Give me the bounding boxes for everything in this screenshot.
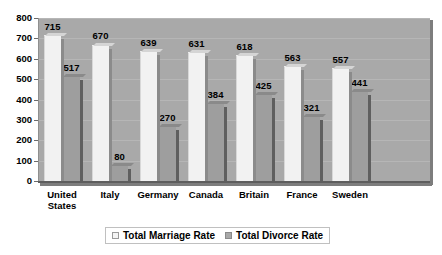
bar-side-face bbox=[301, 70, 304, 181]
y-axis-tick-label: 0 bbox=[2, 176, 32, 185]
y-axis-tick-label: 300 bbox=[2, 115, 32, 124]
bar-side-face bbox=[109, 49, 112, 182]
bar bbox=[303, 116, 320, 181]
bar bbox=[111, 165, 128, 181]
bar-top-face bbox=[285, 64, 307, 67]
bar-top-face bbox=[159, 124, 182, 127]
bar bbox=[236, 55, 253, 181]
bar-top-face bbox=[141, 49, 163, 52]
bar bbox=[255, 94, 272, 181]
gridline bbox=[38, 18, 430, 19]
bar bbox=[92, 45, 109, 182]
bar-top-face bbox=[207, 101, 230, 104]
y-axis-tick-label: 200 bbox=[2, 135, 32, 144]
bar-top-face bbox=[303, 114, 326, 117]
bar-side-face bbox=[80, 80, 83, 181]
y-axis-tick-label: 600 bbox=[2, 54, 32, 63]
bar-side-face bbox=[61, 39, 64, 181]
bar-side-face bbox=[349, 72, 352, 181]
bar bbox=[159, 126, 176, 181]
bar-top-face bbox=[63, 74, 86, 77]
legend-item[interactable]: Total Marriage Rate bbox=[112, 230, 215, 241]
bar-top-face bbox=[45, 33, 67, 36]
bar-value-label: 557 bbox=[328, 55, 353, 65]
legend-swatch-icon bbox=[112, 232, 119, 239]
legend-swatch-icon bbox=[225, 232, 232, 239]
bar-top-face bbox=[111, 163, 134, 166]
bar bbox=[188, 52, 205, 181]
legend-label: Total Divorce Rate bbox=[236, 230, 323, 241]
bar-top-face bbox=[333, 66, 355, 69]
bar-top-face bbox=[351, 89, 374, 92]
bar bbox=[332, 68, 349, 181]
y-axis-tick-label: 100 bbox=[2, 156, 32, 165]
y-axis-tick-label: 700 bbox=[2, 33, 32, 42]
bar-side-face bbox=[320, 120, 323, 181]
x-axis-category-label: Sweden bbox=[322, 189, 378, 200]
bar-side-face bbox=[205, 56, 208, 181]
bar-side-face bbox=[253, 59, 256, 181]
y-axis-tick-label: 400 bbox=[2, 95, 32, 104]
y-axis-line bbox=[38, 18, 39, 183]
bar-side-face bbox=[224, 107, 227, 181]
y-axis-tick-label: 500 bbox=[2, 74, 32, 83]
bar-value-label: 715 bbox=[40, 22, 65, 32]
bar-side-face bbox=[157, 55, 160, 181]
bar-top-face bbox=[237, 53, 259, 56]
y-axis-tick-label: 800 bbox=[2, 13, 32, 22]
bar bbox=[44, 35, 61, 181]
bar bbox=[351, 91, 368, 181]
bar-value-label: 563 bbox=[280, 53, 305, 63]
bar-top-face bbox=[189, 50, 211, 53]
bar-value-label: 639 bbox=[136, 38, 161, 48]
bar-side-face bbox=[176, 130, 179, 181]
bar-side-face bbox=[272, 98, 275, 181]
bar bbox=[140, 51, 157, 181]
bar-top-face bbox=[255, 92, 278, 95]
bar-side-face bbox=[368, 95, 371, 181]
bar-value-label: 670 bbox=[88, 31, 113, 41]
plot-right-shadow bbox=[430, 20, 433, 185]
chart-container: 0100200300400500600700800 71551767080639… bbox=[0, 0, 442, 255]
bar bbox=[284, 66, 301, 181]
chart-legend: Total Marriage RateTotal Divorce Rate bbox=[105, 227, 330, 244]
bar-value-label: 631 bbox=[184, 39, 209, 49]
bar-top-face bbox=[93, 43, 115, 46]
plot-bottom-shadow bbox=[40, 183, 432, 186]
bar bbox=[63, 76, 80, 181]
bar-value-label: 618 bbox=[232, 42, 257, 52]
bar-side-face bbox=[128, 169, 131, 181]
bar bbox=[207, 103, 224, 181]
legend-label: Total Marriage Rate bbox=[123, 230, 215, 241]
legend-item[interactable]: Total Divorce Rate bbox=[225, 230, 323, 241]
